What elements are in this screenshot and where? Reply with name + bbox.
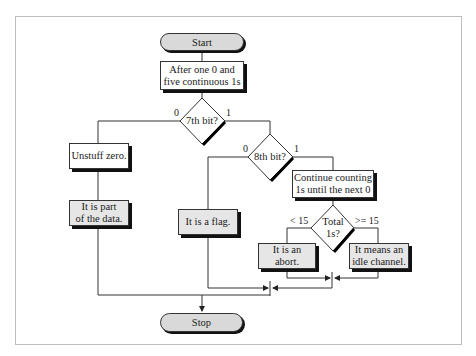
continue-line2: 1s until the next 0 [295, 184, 370, 196]
start-terminal: Start [160, 33, 244, 51]
decision3-branch-lt: < 15 [290, 216, 308, 226]
stop-label: Stop [192, 317, 211, 328]
decision1-label: 7th bit? [182, 115, 222, 127]
idle-line1: It means an [355, 244, 403, 256]
stop-terminal: Stop [160, 313, 243, 332]
start-label: Start [192, 37, 212, 48]
continue-line1: Continue counting [294, 172, 372, 184]
idle-channel-box: It means an idle channel. [349, 243, 409, 269]
continue-counting-box: Continue counting 1s until the next 0 [292, 170, 374, 198]
decision3-branch-ge: >= 15 [355, 216, 379, 226]
decision2-branch1: 1 [294, 144, 299, 154]
decision3-line1: Total [313, 216, 353, 228]
step1-line2: five continuous 1s [164, 76, 241, 88]
abort-line1: It is an [273, 244, 302, 256]
decision2-branch0: 0 [243, 144, 248, 154]
step1-line1: After one 0 and [169, 64, 235, 76]
part-line1: It is part [82, 201, 117, 213]
idle-line2: idle channel. [352, 256, 406, 268]
decision1-branch1: 1 [226, 108, 231, 118]
decision3-line2: 1s? [313, 228, 353, 240]
part-of-data-box: It is part of the data. [69, 200, 129, 226]
decision1-branch0: 0 [174, 108, 179, 118]
flowchart-connectors [0, 0, 476, 356]
decision3-label: Total 1s? [313, 216, 353, 240]
unstuff-label: Unstuff zero. [71, 150, 126, 162]
part-line2: of the data. [76, 213, 123, 225]
after-one-zero-box: After one 0 and five continuous 1s [160, 61, 244, 90]
decision2-label: 8th bit? [250, 151, 290, 163]
unstuff-zero-box: Unstuff zero. [69, 143, 129, 169]
flag-box: It is a flag. [178, 209, 238, 235]
abort-box: It is an abort. [258, 243, 316, 269]
abort-line2: abort. [275, 256, 299, 268]
flag-label: It is a flag. [186, 216, 231, 228]
